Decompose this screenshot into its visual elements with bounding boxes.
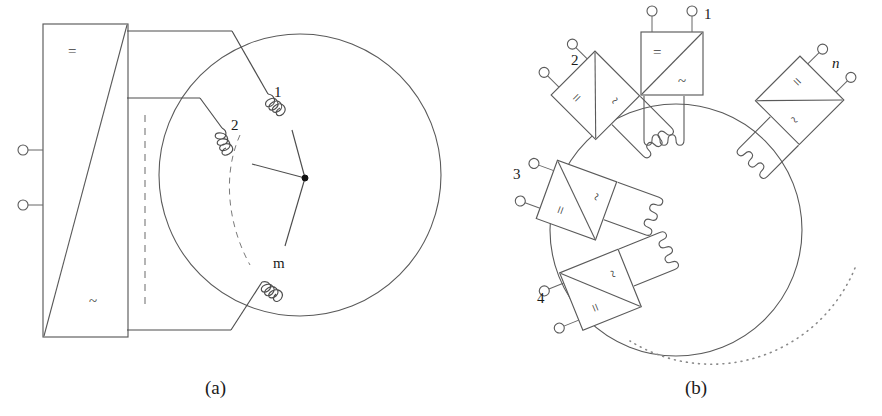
phase-lead-1-a [127, 31, 305, 178]
converter-module-1[interactable]: = ~ 1 [641, 6, 712, 145]
winding-label-2-a: 2 [231, 117, 239, 133]
module-label-2: 2 [571, 52, 579, 68]
dc-terminals-a[interactable] [18, 145, 43, 210]
winding-label-m-a: m [273, 255, 285, 271]
module-terminal-3b[interactable] [528, 157, 541, 170]
dc-symbol-1: = [653, 44, 661, 60]
module-lead-3b [539, 165, 554, 170]
converter-module-3[interactable]: = ~ [512, 151, 664, 257]
module-terminal-3a[interactable] [514, 195, 527, 208]
dc-symbol-a: = [68, 43, 76, 59]
ac-symbol-1: ~ [678, 73, 686, 89]
module-label-1: 1 [704, 6, 712, 22]
module-lead-3a [525, 203, 540, 208]
phase-lead-2-a [127, 98, 305, 178]
module-terminal-4a[interactable] [553, 322, 566, 335]
module-lead-nb [836, 81, 847, 92]
machine-circle-a [159, 34, 441, 316]
module-lead-4b [549, 283, 564, 289]
module-lead-4a [564, 320, 579, 326]
caption-b: (b) [685, 377, 707, 399]
module-lead-2a [548, 76, 559, 87]
neutral-point-a [302, 175, 308, 181]
module-terminal-1a[interactable] [647, 6, 657, 16]
phase-lead-m-a [127, 178, 305, 330]
dc-negative-terminal-a[interactable] [18, 200, 28, 210]
dc-positive-terminal-a[interactable] [18, 145, 28, 155]
ac-symbol-a: ~ [89, 293, 97, 309]
converter-module-n[interactable]: = ~ [720, 38, 862, 180]
module-continuation-dotted-arc-b [630, 268, 855, 364]
module-label-3: 3 [513, 166, 521, 182]
panel-a: = ~ [18, 24, 441, 399]
caption-a: (a) [205, 377, 226, 399]
module-lead-na [808, 53, 819, 64]
figure-root: = ~ [0, 0, 882, 416]
module-label-4: 4 [537, 290, 545, 306]
converter-module-4[interactable]: = ~ [536, 230, 688, 340]
panel-b: = ~ 1 = ~ 2 [512, 6, 862, 399]
module-label-n: n [832, 55, 840, 71]
converter-block-a[interactable]: = ~ [43, 24, 128, 337]
module-terminal-1b[interactable] [687, 6, 697, 16]
figure-canvas: = ~ [0, 0, 882, 416]
winding-continuation-arc-a [229, 135, 250, 265]
winding-label-1-a: 1 [274, 84, 282, 100]
